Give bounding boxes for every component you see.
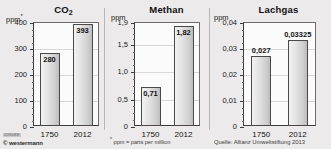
y-tick-label: 0,02	[210, 70, 237, 79]
y-tick-minor	[32, 95, 34, 96]
y-tick-label: 0,03	[210, 44, 237, 53]
y-tick-major	[30, 75, 34, 76]
y-tick-minor	[32, 88, 34, 89]
y-tick-minor	[242, 56, 244, 57]
y-tick-minor	[242, 108, 244, 109]
y-tick-major	[30, 23, 34, 24]
y-tick-minor	[133, 113, 135, 114]
publisher-imprint: 20948E © westermann	[3, 123, 43, 146]
y-tick-minor	[32, 114, 34, 115]
y-tick-minor	[32, 30, 34, 31]
x-tick-label: 2012	[63, 130, 103, 139]
y-tick-major	[30, 49, 34, 50]
y-tick-label: 0	[105, 122, 128, 131]
y-tick-minor	[133, 79, 135, 80]
y-tick-minor	[242, 121, 244, 122]
y-tick-minor	[242, 114, 244, 115]
y-tick-major	[131, 72, 135, 73]
y-tick-minor	[32, 36, 34, 37]
y-tick-minor	[242, 36, 244, 37]
y-tick-minor	[133, 106, 135, 107]
y-tick-minor	[133, 28, 135, 29]
y-tick-minor	[242, 82, 244, 83]
y-tick-minor	[242, 30, 244, 31]
chart-panel-lachgas: Lachgas ppm 00,010,020,030,04 0,0270,033…	[210, 0, 331, 149]
y-tick-label: 1,0	[105, 67, 128, 76]
y-tick-minor	[32, 69, 34, 70]
bar	[288, 40, 308, 126]
y-tick-major	[131, 127, 135, 128]
x-tick-label: 1750	[241, 130, 281, 139]
y-tick-major	[240, 75, 244, 76]
y-tick-minor	[133, 34, 135, 35]
bar	[174, 26, 194, 126]
y-tick-minor	[32, 121, 34, 122]
footnote-ppm: * ppm = parts per million	[110, 136, 170, 145]
chart-panel-methan: Methan ppm 00,51,01,51,9 0,711,82 175020…	[105, 0, 210, 149]
bar-value-label: 0,03325	[276, 30, 320, 39]
y-tick-minor	[32, 82, 34, 83]
y-tick-minor	[133, 59, 135, 60]
y-tick-label: 0,01	[210, 96, 237, 105]
y-tick-label: 0	[210, 122, 237, 131]
publisher-logo: © westermann	[3, 140, 43, 146]
bar	[73, 24, 93, 126]
y-tick-label: 1,5	[105, 39, 128, 48]
x-tick-label: 2012	[278, 130, 318, 139]
bar-value-label: 280	[28, 55, 72, 64]
figure-canvas: CO2 ppm* 0100200300400 280393 17502012 M…	[0, 0, 331, 149]
y-tick-major	[131, 100, 135, 101]
y-tick-label: 100	[0, 96, 27, 105]
y-tick-major	[240, 101, 244, 102]
bar-value-label: 1,82	[162, 28, 206, 37]
bar	[251, 56, 271, 126]
y-tick-label: 0,5	[105, 94, 128, 103]
y-tick-label: 400	[0, 18, 27, 27]
y-tick-minor	[133, 52, 135, 53]
y-tick-minor	[242, 43, 244, 44]
y-tick-minor	[242, 95, 244, 96]
y-tick-label: 1,9	[105, 18, 128, 27]
y-tick-minor	[32, 108, 34, 109]
y-tick-minor	[32, 43, 34, 44]
y-tick-major	[131, 45, 135, 46]
y-tick-minor	[242, 62, 244, 63]
y-tick-label: 0,04	[210, 18, 237, 27]
y-tick-major	[30, 101, 34, 102]
y-tick-major	[240, 23, 244, 24]
y-tick-minor	[133, 39, 135, 40]
y-tick-minor	[242, 69, 244, 70]
y-tick-minor	[133, 65, 135, 66]
imprint-code: 20948E	[3, 133, 21, 137]
y-tick-major	[131, 23, 135, 24]
source-note: Quelle: Allianz Umweltstiftung 2013	[214, 139, 305, 145]
y-tick-minor	[133, 120, 135, 121]
bar-value-label: 393	[61, 26, 105, 35]
y-tick-minor	[133, 86, 135, 87]
y-tick-label: 200	[0, 70, 27, 79]
bar-value-label: 0,027	[239, 46, 283, 55]
bar-value-label: 0,71	[129, 89, 173, 98]
y-tick-minor	[242, 88, 244, 89]
y-tick-major	[240, 127, 244, 128]
y-tick-label: 300	[0, 44, 27, 53]
